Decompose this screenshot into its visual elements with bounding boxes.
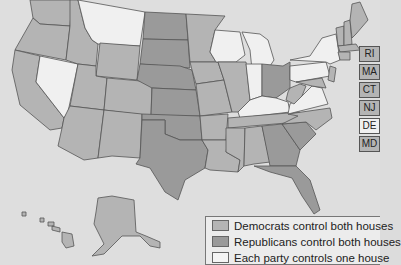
democrats-swatch <box>212 220 229 231</box>
map-legend: Democrats control both houses Republican… <box>205 216 380 265</box>
state-HI <box>62 232 74 248</box>
small-state-boxes: RI MA CT NJ DE MD <box>359 46 380 154</box>
state-SD <box>140 39 190 68</box>
legend-item-democrats: Democrats control both houses <box>206 218 380 233</box>
state-box-md: MD <box>359 136 380 152</box>
state-AK <box>92 196 160 256</box>
state-AR <box>200 114 228 140</box>
legend-label: Republicans control both houses <box>234 236 401 248</box>
state-PA <box>290 62 330 82</box>
state-CT <box>338 52 350 60</box>
state-box-ri: RI <box>359 46 380 62</box>
state-HI-islands <box>22 212 60 232</box>
state-NY <box>290 34 340 64</box>
state-NM <box>98 110 142 158</box>
state-box-ct: CT <box>359 82 380 98</box>
state-ND <box>143 12 188 40</box>
legend-item-split: Each party controls one house <box>206 250 380 265</box>
state-box-de: DE <box>359 118 380 134</box>
state-WY <box>96 43 140 80</box>
state-NJ <box>328 66 336 82</box>
state-box-ma: MA <box>359 64 380 80</box>
legend-item-republicans: Republicans control both houses <box>206 234 380 249</box>
state-box-nj: NJ <box>359 100 380 116</box>
legend-label: Each party controls one house <box>234 252 389 264</box>
state-WI <box>210 30 245 62</box>
legend-label: Democrats control both houses <box>234 220 393 232</box>
state-OH <box>262 62 290 98</box>
republicans-swatch <box>212 236 229 247</box>
state-FL <box>254 166 320 214</box>
state-KS <box>151 88 200 116</box>
state-ME <box>350 2 368 38</box>
split-swatch <box>212 252 229 263</box>
